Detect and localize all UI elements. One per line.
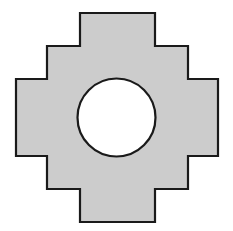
figure-canvas: Stepped cruciform plate with central cir… <box>0 0 233 231</box>
central-circular-hole <box>78 79 156 157</box>
stepped-cruciform-figure: Stepped cruciform plate with central cir… <box>0 0 233 231</box>
